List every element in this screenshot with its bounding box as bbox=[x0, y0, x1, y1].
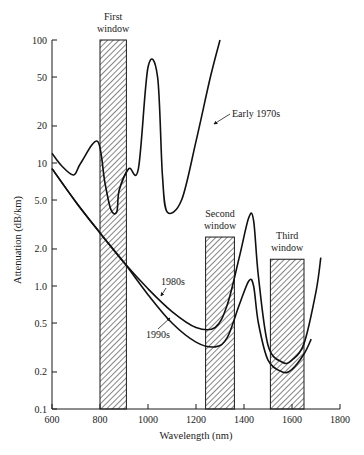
x-axis-title: Wavelength (nm) bbox=[160, 430, 233, 442]
svg-text:1990s: 1990s bbox=[146, 329, 170, 340]
window-2-label: Second bbox=[205, 208, 234, 219]
y-axis-title: Attenuation (dB/km) bbox=[12, 196, 24, 284]
svg-text:1980s: 1980s bbox=[161, 276, 185, 287]
svg-text:Early 1970s: Early 1970s bbox=[232, 108, 280, 119]
window-2-label: window bbox=[204, 220, 237, 231]
y-tick-label: 10 bbox=[37, 158, 47, 169]
y-tick-label: 1.0 bbox=[35, 281, 48, 292]
annotation-early-1970s: Early 1970s bbox=[214, 108, 280, 124]
y-tick-label: 0.5 bbox=[35, 318, 48, 329]
x-tick-label: 1800 bbox=[330, 414, 350, 425]
x-tick-label: 1200 bbox=[186, 414, 206, 425]
y-tick-label: 2.0 bbox=[35, 243, 48, 254]
x-tick-label: 1000 bbox=[138, 414, 158, 425]
x-tick-label: 1600 bbox=[282, 414, 302, 425]
y-tick-label: 5.0 bbox=[35, 195, 48, 206]
window-3-band bbox=[270, 259, 304, 409]
annotation-1980s: 1980s bbox=[161, 276, 185, 296]
y-tick-label: 0.1 bbox=[35, 404, 48, 415]
x-tick-label: 800 bbox=[93, 414, 108, 425]
window-1-band bbox=[100, 40, 126, 409]
y-tick-label: 100 bbox=[32, 35, 47, 46]
window-3-label: Third bbox=[276, 230, 298, 241]
attenuation-chart: FirstwindowSecondwindowThirdwindow 10050… bbox=[0, 0, 364, 455]
y-tick-label: 50 bbox=[37, 72, 47, 83]
transmission-windows: FirstwindowSecondwindowThirdwindow bbox=[97, 11, 304, 409]
x-tick-label: 1400 bbox=[234, 414, 254, 425]
window-1-label: window bbox=[97, 23, 130, 34]
annotation-1990s: 1990s bbox=[146, 318, 170, 340]
y-tick-label: 0.2 bbox=[35, 366, 48, 377]
curve-early-1970s bbox=[52, 40, 220, 214]
window-3-label: window bbox=[271, 242, 304, 253]
y-axis: 1005020105.02.01.00.50.20.1 bbox=[32, 35, 57, 415]
y-tick-label: 20 bbox=[37, 120, 47, 131]
x-tick-label: 600 bbox=[45, 414, 60, 425]
window-1-label: First bbox=[104, 11, 123, 22]
